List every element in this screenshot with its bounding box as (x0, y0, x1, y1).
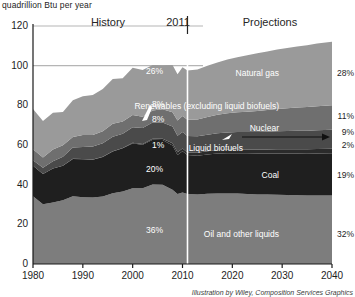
share-2040-renewables-excluding-liquid-biofuels: 11% (332, 111, 354, 121)
share-2011-liquid-biofuels: 1% (152, 140, 164, 150)
x-tick-label: 2000 (113, 270, 153, 281)
share-2011-renewables-excluding-liquid-biofuels: 8% (152, 99, 164, 109)
series-label-liquid-biofuels: Liquid biofuels (189, 143, 243, 153)
energy-consumption-area-chart: quadrillion Btu per year 020406080100120… (0, 0, 355, 297)
illustration-credit: Illustration by Wiley, Composition Servi… (192, 289, 353, 296)
share-2040-oil-and-other-liquids: 32% (332, 229, 354, 239)
x-tick-label: 2020 (212, 270, 252, 281)
era-label-projections: Projections (215, 16, 325, 28)
y-tick-label: 80 (2, 99, 28, 110)
y-tick-label: 120 (2, 20, 28, 31)
share-2011-nuclear: 8% (152, 114, 164, 124)
y-tick-label: 100 (2, 60, 28, 71)
series-label-oil-and-other-liquids: Oil and other liquids (204, 229, 279, 239)
x-tick-label: 1990 (63, 270, 103, 281)
series-label-coal: Coal (262, 170, 279, 180)
x-tick-label: 2040 (312, 270, 352, 281)
y-tick-label: 60 (2, 139, 28, 150)
series-label-nuclear: Nuclear (250, 123, 279, 133)
share-2040-liquid-biofuels: 2% (332, 140, 354, 150)
y-tick-label: 20 (2, 218, 28, 229)
x-tick-label: 2010 (163, 270, 203, 281)
era-label-2011: 2011 (148, 16, 208, 28)
x-tick-label: 1980 (13, 270, 53, 281)
share-2040-natural-gas: 28% (332, 68, 354, 78)
share-2040-nuclear: 9% (332, 127, 354, 137)
share-2011-oil-and-other-liquids: 36% (146, 225, 163, 235)
y-tick-label: 0 (2, 258, 28, 269)
y-tick-label: 40 (2, 179, 28, 190)
share-2011-natural-gas: 26% (146, 66, 163, 76)
share-2040-coal: 19% (332, 170, 354, 180)
chart-plot-svg (0, 0, 355, 297)
series-label-natural-gas: Natural gas (236, 68, 279, 78)
share-2011-coal: 20% (146, 164, 163, 174)
x-tick-label: 2030 (262, 270, 302, 281)
